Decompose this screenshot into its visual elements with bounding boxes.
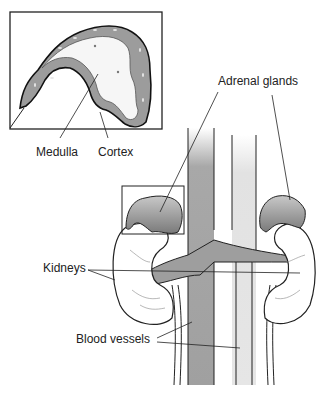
left-adrenal-gland [122, 186, 184, 234]
label-kidneys: Kidneys [43, 261, 86, 275]
label-adrenal-glands: Adrenal glands [218, 74, 298, 88]
inset-adrenal-cross-section [10, 12, 162, 138]
label-blood-vessels: Blood vessels [76, 332, 150, 346]
diagram-canvas [0, 0, 334, 395]
label-cortex: Cortex [98, 145, 133, 159]
right-kidney [264, 223, 315, 323]
label-medulla: Medulla [36, 145, 78, 159]
